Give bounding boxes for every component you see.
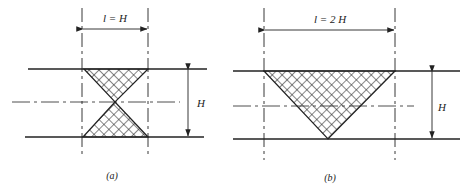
panel-caption: (b) — [324, 172, 336, 184]
panel-b: l = 2 H H (b) — [233, 8, 460, 184]
height-label: H — [196, 97, 206, 109]
panel-a: l = H H (a) — [12, 8, 207, 182]
figure: l = H H (a) l = 2 H H (b) — [0, 0, 466, 191]
width-label: l = H — [103, 12, 128, 24]
hatched-triangle-bottom — [83, 102, 148, 137]
height-label: H — [437, 101, 447, 113]
panel-caption: (a) — [106, 170, 118, 182]
width-label: l = 2 H — [314, 13, 347, 25]
hatched-triangle — [264, 71, 395, 139]
hatched-triangle-top — [84, 69, 148, 102]
